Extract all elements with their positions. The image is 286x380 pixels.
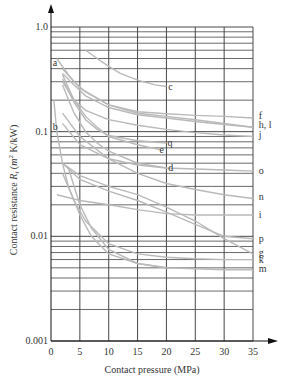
x-tick-label: 5 <box>77 346 82 357</box>
curve-label: m <box>259 263 267 274</box>
contact-resistance-chart: 05101520253035 0.0010.010.11.0 abcqedfh,… <box>0 0 286 380</box>
grid <box>51 27 253 341</box>
curve-label: o <box>259 165 264 176</box>
x-tick-labels: 05101520253035 <box>49 346 259 357</box>
curve-label: b <box>53 121 58 132</box>
curve-label: c <box>168 81 173 92</box>
curve-m <box>68 168 253 270</box>
curve-label: a <box>53 57 58 68</box>
y-tick-label: 1.0 <box>36 21 49 32</box>
x-axis-label: Contact pressure (MPa) <box>105 364 200 376</box>
curve-label: p <box>259 233 264 244</box>
x-axis-arrow-icon <box>268 338 278 344</box>
y-tick-label: 0.001 <box>26 335 49 346</box>
curve-label: n <box>259 191 264 202</box>
curve-d <box>63 85 167 168</box>
y-axis-label-units-rest: K/kW) <box>8 125 20 155</box>
curve-label: q <box>168 137 173 148</box>
x-tick-label: 0 <box>49 346 54 357</box>
y-tick-labels: 0.0010.010.11.0 <box>26 21 49 346</box>
x-tick-label: 25 <box>190 346 200 357</box>
x-tick-label: 30 <box>219 346 229 357</box>
x-tick-label: 20 <box>161 346 171 357</box>
y-axis-label-symbol: R <box>8 174 19 181</box>
y-axis-label: Contact resistance Rt (m2 K/kW) <box>7 125 21 255</box>
axes <box>48 4 278 344</box>
y-tick-label: 0.01 <box>31 230 49 241</box>
curve-label: d <box>168 162 173 173</box>
y-axis-label-unit-m: m <box>8 159 19 166</box>
x-tick-label: 35 <box>248 346 258 357</box>
y-axis-label-prefix: Contact resistance <box>8 180 19 256</box>
y-axis-arrow-icon <box>48 4 54 13</box>
x-tick-label: 15 <box>133 346 143 357</box>
y-tick-label: 0.1 <box>36 126 49 137</box>
x-tick-label: 10 <box>104 346 114 357</box>
curve-label: j <box>258 129 262 140</box>
curve-label: i <box>259 209 262 220</box>
curve-label: e <box>160 144 165 155</box>
